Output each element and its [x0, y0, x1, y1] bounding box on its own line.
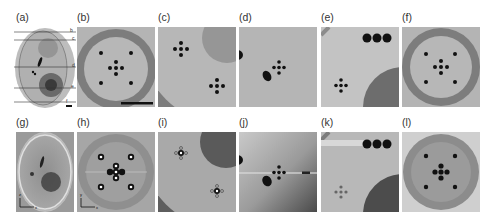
panel-l-reconstruction — [402, 132, 480, 212]
axis-x-label: x — [96, 205, 98, 210]
panel-h-reconstruction: y x — [77, 132, 155, 212]
panel-label-c: (c) — [158, 11, 170, 23]
panel-j-reconstruction — [239, 132, 317, 212]
axis-z-label: z — [19, 192, 21, 197]
panel-label-e: (e) — [321, 11, 334, 23]
panel-label-l: (l) — [402, 116, 411, 128]
panel-i-reconstruction — [158, 132, 236, 212]
panel-d-slice — [239, 27, 317, 107]
svg-text:b: b — [70, 27, 73, 33]
panel-b-slice — [77, 27, 155, 107]
panel-g-reconstruction: z x — [16, 132, 74, 212]
axis-y-label: y — [80, 192, 82, 197]
axis-x-label: x — [35, 205, 37, 210]
svg-text:d: d — [72, 62, 75, 68]
panel-label-a: (a) — [16, 11, 29, 23]
panel-label-j: (j) — [239, 116, 248, 128]
panel-e-slice — [321, 27, 399, 107]
panel-label-g: (g) — [16, 116, 29, 128]
svg-text:f: f — [66, 98, 68, 104]
panel-label-f: (f) — [402, 11, 412, 23]
panel-label-k: (k) — [321, 116, 333, 128]
panel-label-h: (h) — [77, 116, 90, 128]
svg-text:e: e — [71, 83, 74, 89]
scale-bar — [121, 102, 153, 105]
panel-label-i: (i) — [158, 116, 167, 128]
panel-a-phantom: b c d e f — [14, 27, 76, 109]
panel-label-d: (d) — [239, 11, 252, 23]
panel-k-reconstruction — [321, 132, 399, 212]
panel-f-slice — [402, 27, 480, 107]
panel-label-b: (b) — [77, 11, 90, 23]
panel-c-slice — [158, 27, 236, 107]
